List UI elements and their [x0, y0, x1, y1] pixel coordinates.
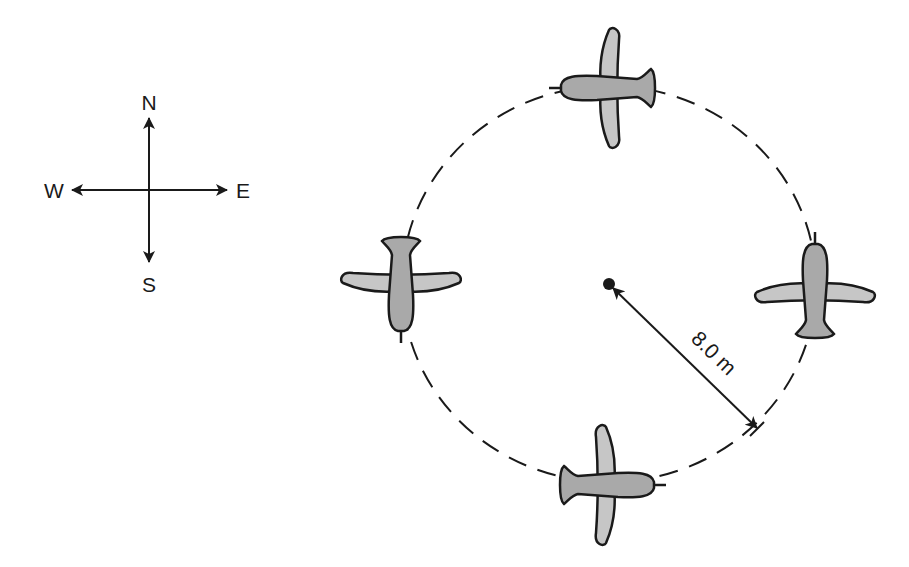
airplane-top-icon — [549, 28, 655, 148]
south-label: S — [142, 273, 156, 296]
airplane-left-icon — [341, 237, 461, 343]
west-label: W — [44, 179, 64, 202]
east-label: E — [236, 179, 250, 202]
airplane-right-icon — [755, 232, 875, 338]
compass-rose: N S E W — [44, 91, 250, 296]
north-label: N — [141, 91, 156, 114]
airplane-bottom-icon — [560, 425, 666, 545]
circular-motion-diagram: N S E W 8.0 m — [0, 0, 909, 567]
radius-label: 8.0 m — [687, 326, 741, 379]
